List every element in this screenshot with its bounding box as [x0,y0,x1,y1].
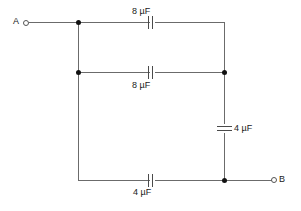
junction-node-middle-left [76,70,81,75]
capacitor-right-plate-bottom [217,130,232,131]
wire-a-lead [29,22,80,23]
wire-b-lead [224,180,272,181]
terminal-label-a: A [13,17,19,26]
junction-node-middle-right [222,70,227,75]
wire-middle-left-segment [78,72,150,73]
terminal-b-node[interactable] [271,177,277,183]
capacitor-top-plate-right [152,16,153,29]
capacitor-middle-plate-left [148,66,149,79]
wire-bottom-left-segment [78,180,150,181]
capacitor-middle-label: 8 µF [132,80,150,90]
capacitor-top-plate-left [148,16,149,29]
capacitor-top-symbol[interactable] [146,16,155,29]
terminal-label-b: B [279,175,285,184]
wire-middle-right-segment [155,72,225,73]
capacitor-right-label: 4 µF [234,123,252,133]
capacitor-bottom-label: 4 µF [133,187,151,197]
capacitor-middle-symbol[interactable] [146,66,155,79]
junction-node-bottom-right [222,178,227,183]
capacitor-right-symbol[interactable] [217,124,232,133]
junction-node-top-left [76,20,81,25]
capacitor-top-label: 8 µF [132,6,150,16]
capacitor-bottom-plate-right [152,174,153,187]
terminal-a-node[interactable] [23,20,29,26]
capacitor-bottom-plate-left [148,174,149,187]
wire-top-left-segment [78,22,150,23]
capacitor-middle-plate-right [152,66,153,79]
wire-top-right-segment [155,22,225,23]
wire-bottom-right-segment [155,180,225,181]
capacitor-bottom-symbol[interactable] [146,174,155,187]
wire-left-rail [78,22,79,181]
wire-right-rail-lower [224,133,225,181]
capacitor-right-plate-top [217,126,232,127]
circuit-diagram: A 8 µF 8 µF 4 µF 4 µF B [0,0,301,211]
